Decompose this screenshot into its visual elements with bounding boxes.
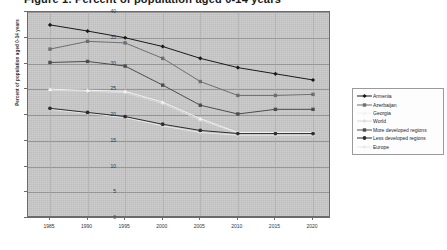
x-axis-line <box>27 217 330 218</box>
y-axis-tick-label: 30 <box>96 60 116 66</box>
y-axis-tick <box>24 114 27 115</box>
y-axis-tick <box>24 63 27 64</box>
chart-page: Figure 1. Percent of population aged 0-1… <box>0 0 447 250</box>
legend-key-icon <box>356 101 373 109</box>
x-axis-tick-label: 2015 <box>261 223 287 229</box>
legend-item-label: Armenia <box>373 92 392 100</box>
x-axis-tick <box>49 217 50 220</box>
legend-item-label: Azerbaijan <box>373 101 397 109</box>
y-axis-title: Percent of population aged 0-14 years <box>15 0 20 128</box>
x-axis-tick-label: 2005 <box>186 223 212 229</box>
legend-item-label: Less developed regions <box>373 134 426 142</box>
x-axis-tick <box>124 217 125 220</box>
legend-key-icon <box>356 143 373 151</box>
legend-item-label: World <box>373 117 386 125</box>
y-axis-tick-label: 40 <box>96 8 116 14</box>
y-axis-tick-label: 15 <box>96 137 116 143</box>
legend-item-europe[interactable]: Europe <box>356 142 441 150</box>
x-axis-tick-label: 2010 <box>224 223 250 229</box>
y-axis-tick <box>24 11 27 12</box>
legend-item-label: Georgia <box>373 109 391 117</box>
series-lines <box>28 12 331 218</box>
y-axis-tick-label: 35 <box>96 34 116 40</box>
x-axis-tick-label: 2000 <box>149 223 175 229</box>
x-axis-tick-label: 2020 <box>299 223 325 229</box>
legend-item-label: More developed regions <box>373 126 427 134</box>
legend-key-icon <box>356 126 373 134</box>
series-azerbaijan <box>48 40 314 97</box>
x-axis-tick-label: 1985 <box>36 223 62 229</box>
series-armenia <box>48 23 315 82</box>
x-axis-tick <box>87 217 88 220</box>
plot-area <box>27 11 330 217</box>
chart-title-cropped: Figure 1. Percent of population aged 0-1… <box>0 0 447 9</box>
x-axis-tick <box>312 217 313 220</box>
y-axis-tick <box>24 191 27 192</box>
x-axis-tick <box>199 217 200 220</box>
x-axis-tick-label: 1990 <box>74 223 100 229</box>
y-axis-tick <box>24 140 27 141</box>
legend-item-armenia[interactable]: Armenia <box>356 92 441 100</box>
legend-item-more-developed-regions[interactable]: More developed regions <box>356 126 441 134</box>
legend: ArmeniaAzerbaijanGeorgiaWorldMore develo… <box>352 88 444 155</box>
legend-item-less-developed-regions[interactable]: Less developed regions <box>356 134 441 142</box>
y-axis-tick <box>24 88 27 89</box>
y-axis-tick-label: 25 <box>96 85 116 91</box>
x-axis-tick <box>162 217 163 220</box>
x-axis-tick <box>274 217 275 220</box>
legend-key-icon <box>356 92 373 100</box>
legend-key-icon <box>356 109 373 117</box>
y-axis-tick-label: 20 <box>96 111 116 117</box>
chart-title-text: Figure 1. Percent of population aged 0-1… <box>24 0 281 5</box>
legend-key-icon <box>356 134 373 142</box>
x-axis-tick <box>237 217 238 220</box>
series-more-developed-regions <box>48 60 314 116</box>
x-axis-tick-label: 1995 <box>111 223 137 229</box>
legend-item-georgia[interactable]: Georgia <box>356 109 441 117</box>
legend-item-label: Europe <box>373 143 389 151</box>
y-axis-tick <box>24 166 27 167</box>
legend-item-world[interactable]: World <box>356 117 441 125</box>
legend-item-azerbaijan[interactable]: Azerbaijan <box>356 100 441 108</box>
y-axis-tick-label: 10 <box>96 163 116 169</box>
legend-key-icon <box>356 117 373 125</box>
y-axis-tick-label: 5 <box>96 188 116 194</box>
y-axis-tick <box>24 37 27 38</box>
